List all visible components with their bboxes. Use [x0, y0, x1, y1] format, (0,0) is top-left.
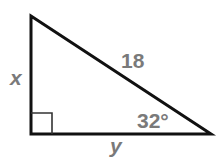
right-angle-marker [31, 113, 52, 134]
vertical-leg-label: x [10, 67, 22, 88]
angle-label: 32° [137, 110, 169, 131]
right-triangle [31, 16, 211, 134]
horizontal-leg-label: y [110, 135, 122, 156]
hypotenuse-label: 18 [121, 50, 144, 71]
